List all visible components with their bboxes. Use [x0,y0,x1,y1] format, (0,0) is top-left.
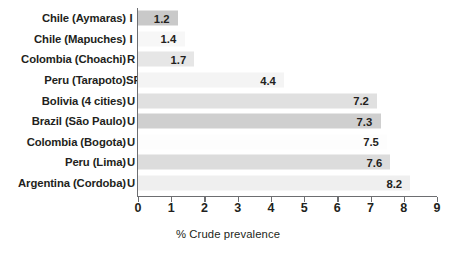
bar [138,155,390,170]
x-axis-tick-label: 4 [259,201,283,215]
category-label: Chile (Aymaras) [42,12,126,24]
bar-value-label: 8.2 [386,177,402,189]
bar-track: 1.2 [138,11,456,26]
bar-track: 8.2 [138,176,456,191]
setting-code-label: I [126,12,136,24]
setting-code-label: U [126,115,136,127]
bar-track: 7.6 [138,155,456,170]
bar-track: 7.3 [138,114,456,129]
bar-row: Peru (Tarapoto)SR4.4 [0,70,456,91]
plot-area: Chile (Aymaras)I1.2Chile (Mapuches)I1.4C… [0,8,456,196]
x-axis-title: % Crude prevalence [0,228,456,240]
bar-row: Bolivia (4 cities)U7.2 [0,90,456,111]
bar-value-label: 7.3 [357,115,373,127]
bar [138,93,377,108]
bar-value-label: 1.2 [154,12,170,24]
x-axis-tick-label: 3 [226,201,250,215]
category-label: Chile (Mapuches) [34,33,126,45]
bar [138,176,410,191]
bar-value-label: 1.7 [170,53,186,65]
x-axis-tick-label: 5 [292,201,316,215]
bar-row: Chile (Mapuches)I1.4 [0,29,456,50]
bar-value-label: 4.4 [260,74,276,86]
category-label: Colombia (Bogota) [27,136,126,148]
setting-code-label: U [126,95,136,107]
x-axis-tick-label: 7 [359,201,383,215]
bar-row: Argentina (Cordoba)U8.2 [0,173,456,194]
y-axis-line [137,8,138,197]
bar-row: Brazil (São Paulo)U7.3 [0,111,456,132]
crude-prevalence-bar-chart: Chile (Aymaras)I1.2Chile (Mapuches)I1.4C… [0,0,456,255]
bar-track: 1.7 [138,52,456,67]
bar-track: 1.4 [138,31,456,46]
setting-code-label: R [126,53,136,65]
bar [138,114,381,129]
bar-value-label: 1.4 [161,33,177,45]
category-label: Argentina (Cordoba) [18,177,126,189]
bar-value-label: 7.5 [363,136,379,148]
setting-code-label: SR [126,74,136,86]
bar-track: 7.2 [138,93,456,108]
bar-row: Colombia (Choachi)R1.7 [0,49,456,70]
bar-row: Colombia (Bogota)U7.5 [0,132,456,153]
bar-track: 7.5 [138,134,456,149]
x-axis-tick-label: 1 [159,201,183,215]
category-label: Peru (Tarapoto) [44,74,126,86]
x-axis-tick-label: 0 [126,201,150,215]
x-axis-tick-label: 2 [192,201,216,215]
x-axis-line [138,196,437,197]
bar [138,134,387,149]
category-label: Brazil (São Paulo) [32,115,126,127]
x-axis-tick-label: 8 [392,201,416,215]
category-label: Colombia (Choachi) [21,53,126,65]
bar-value-label: 7.6 [366,156,382,168]
bar-value-label: 7.2 [353,95,369,107]
bar-row: Peru (Lima)U7.6 [0,152,456,173]
setting-code-label: U [126,177,136,189]
setting-code-label: U [126,136,136,148]
bar-row: Chile (Aymaras)I1.2 [0,8,456,29]
setting-code-label: I [126,33,136,45]
setting-code-label: U [126,156,136,168]
category-label: Peru (Lima) [65,156,126,168]
x-axis-tick-label: 9 [425,201,449,215]
x-axis-tick-label: 6 [325,201,349,215]
category-label: Bolivia (4 cities) [42,95,126,107]
bar-track: 4.4 [138,73,456,88]
